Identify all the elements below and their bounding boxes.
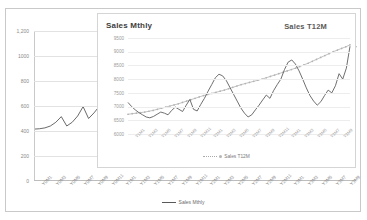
inner-marker-sales-t12m [316, 59, 318, 61]
inner-plot-area [128, 38, 350, 134]
inner-gridline [128, 107, 350, 108]
inner-marker-sales-t12m [177, 103, 179, 105]
inner-gridline [128, 65, 350, 66]
inner-marker-sales-t12m [232, 87, 234, 89]
outer-y-tick-label: 600 [5, 104, 29, 109]
inner-marker-sales-t12m [131, 113, 133, 115]
legend-swatch-sales-t12m [203, 156, 217, 157]
inner-gridline [128, 38, 350, 39]
inner-chart-title: Sales Mthly [106, 21, 152, 30]
inner-marker-sales-t12m [295, 67, 297, 69]
inner-y-tick-label: 6500 [98, 118, 124, 123]
inner-marker-sales-t12m [223, 89, 225, 91]
outer-y-tick-label: 1,200 [5, 29, 29, 34]
inner-y-tick-label: 7500 [98, 91, 124, 96]
legend-swatch-sales-mthly [162, 202, 176, 203]
outer-y-tick-label: 0 [5, 179, 29, 184]
inner-gridline [128, 52, 350, 53]
inner-y-axis: 95009000850080007500700065006000 [98, 38, 127, 134]
inner-marker-sales-t12m [311, 60, 313, 62]
inner-marker-sales-t12m [186, 100, 188, 102]
inner-chart-panel: Sales Mthly Sales T12M 95009000850080007… [97, 13, 356, 168]
inner-y-tick-label: 8500 [98, 63, 124, 68]
inner-marker-sales-t12m [274, 74, 276, 76]
inner-marker-sales-t12m [291, 69, 293, 71]
inner-marker-sales-t12m [127, 113, 129, 115]
outer-x-axis: Y0M1Y0M3Y0M5Y0M7Y0M9Y0M11Y1M1Y1M3Y1M5Y1M… [34, 183, 356, 211]
inner-marker-sales-t12m [136, 112, 138, 114]
legend-label-sales-mthly: Sales Mthly [179, 199, 205, 205]
inner-marker-sales-t12m [286, 70, 288, 72]
inner-marker-sales-t12m [198, 96, 200, 98]
inner-marker-sales-t12m [228, 88, 230, 90]
inner-marker-sales-t12m [244, 83, 246, 85]
inner-marker-sales-t12m [349, 44, 351, 46]
inner-marker-sales-t12m [253, 80, 255, 82]
inner-marker-sales-t12m [236, 85, 238, 87]
inner-marker-sales-t12m [249, 82, 251, 84]
inner-y-tick-label: 7000 [98, 104, 124, 109]
outer-y-tick-label: 800 [5, 79, 29, 84]
inner-marker-sales-t12m [203, 95, 205, 97]
inner-marker-sales-t12m [194, 97, 196, 99]
inner-marker-sales-t12m [324, 55, 326, 57]
inner-marker-sales-t12m [345, 46, 347, 48]
inner-marker-sales-t12m [341, 48, 343, 50]
inner-y-tick-label: 6000 [98, 132, 124, 137]
outer-y-tick-label: 1000 [5, 54, 29, 59]
inner-y-tick-label: 9500 [98, 36, 124, 41]
inner-marker-sales-t12m [161, 107, 163, 109]
outer-y-tick-label: 400 [5, 129, 29, 134]
inner-legend: Sales T12M [98, 154, 355, 159]
inner-marker-sales-t12m [320, 57, 322, 59]
inner-y-tick-label: 9000 [98, 49, 124, 54]
legend-label-sales-t12m: Sales T12M [224, 154, 250, 159]
inner-marker-sales-t12m [156, 108, 158, 110]
inner-marker-sales-t12m [144, 111, 146, 113]
inner-marker-sales-t12m [278, 73, 280, 75]
inner-gridline [128, 120, 350, 121]
inner-marker-sales-t12m [173, 104, 175, 106]
inner-marker-sales-t12m [219, 90, 221, 92]
chart-screenshot: 020040060080010001,200 Y0M1Y0M3Y0M5Y0M7Y… [0, 0, 367, 220]
inner-marker-sales-t12m [270, 76, 272, 78]
inner-marker-sales-t12m [328, 53, 330, 55]
inner-marker-sales-t12m [182, 102, 184, 104]
outer-y-tick-label: 200 [5, 154, 29, 159]
inner-marker-sales-t12m [148, 110, 150, 112]
inner-gridline [128, 79, 350, 80]
inner-chart-title-right: Sales T12M [284, 22, 327, 31]
inner-marker-sales-t12m [337, 49, 339, 51]
legend-marker-sales-t12m [219, 155, 222, 158]
inner-marker-sales-t12m [307, 62, 309, 64]
inner-y-tick-label: 8000 [98, 77, 124, 82]
outer-y-axis: 020040060080010001,200 [6, 31, 32, 181]
outer-legend: Sales Mthly [6, 199, 360, 205]
inner-gridline [128, 93, 350, 94]
inner-marker-sales-t12m [152, 110, 154, 112]
inner-marker-sales-t12m [240, 84, 242, 86]
